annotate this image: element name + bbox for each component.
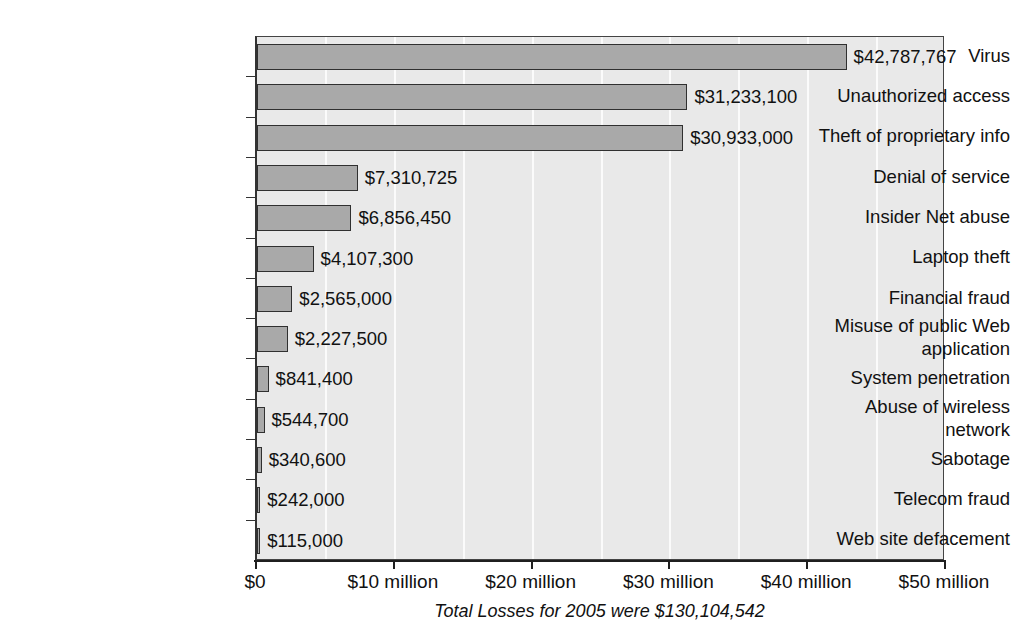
- bar: [257, 366, 269, 392]
- y-axis-tick: [246, 358, 255, 359]
- category-label-line: Denial of service: [873, 166, 1010, 187]
- x-axis-tick-label: $50 million: [899, 571, 990, 593]
- y-axis-tick: [246, 117, 255, 118]
- category-label-line: Sabotage: [931, 448, 1010, 469]
- y-axis-tick: [246, 278, 255, 279]
- y-axis-tick: [246, 76, 255, 77]
- bar: [257, 326, 288, 352]
- category-label: Misuse of public Webapplication: [771, 314, 1017, 360]
- category-label-line: application: [771, 337, 1010, 360]
- y-axis-tick: [246, 520, 255, 521]
- category-label-line: System penetration: [851, 367, 1010, 388]
- bar-value-label: $2,565,000: [292, 286, 392, 312]
- bar-value-label: $544,700: [265, 407, 349, 433]
- bar: [257, 205, 351, 231]
- category-label: Unauthorized access: [771, 84, 1017, 107]
- x-axis-tick-label: $10 million: [347, 571, 438, 593]
- bar-value-label: $242,000: [260, 487, 344, 513]
- category-label: Theft of proprietary info: [771, 124, 1017, 147]
- category-label-line: Laptop theft: [912, 246, 1010, 267]
- category-label-line: Insider Net abuse: [865, 206, 1010, 227]
- category-label: Web site defacement: [771, 527, 1017, 550]
- bar-value-label: $7,310,725: [358, 165, 458, 191]
- y-axis-tick: [246, 399, 255, 400]
- category-label-line: Telecom fraud: [894, 488, 1010, 509]
- x-axis-tick: [393, 560, 395, 569]
- category-label-line: Theft of proprietary info: [819, 125, 1010, 146]
- category-label-line: Virus: [968, 45, 1010, 66]
- x-axis-line: [254, 560, 945, 562]
- y-axis-tick: [246, 197, 255, 198]
- bar-value-label: $2,227,500: [288, 326, 388, 352]
- category-label: Laptop theft: [771, 245, 1017, 268]
- x-axis-tick-label: $40 million: [761, 571, 852, 593]
- bar: [257, 246, 314, 272]
- x-axis-tick-label: $20 million: [485, 571, 576, 593]
- x-axis-tick: [255, 560, 257, 569]
- category-label-line: network: [771, 418, 1010, 441]
- y-axis-tick: [246, 157, 255, 158]
- category-label: Telecom fraud: [771, 487, 1017, 510]
- category-label: Abuse of wirelessnetwork: [771, 395, 1017, 441]
- x-axis-tick: [944, 560, 946, 569]
- bar-value-label: $841,400: [269, 366, 353, 392]
- bar: [257, 165, 358, 191]
- category-label: Sabotage: [771, 447, 1017, 470]
- category-label: Denial of service: [771, 165, 1017, 188]
- category-label: System penetration: [771, 366, 1017, 389]
- x-axis-tick-label: $30 million: [623, 571, 714, 593]
- category-label: Virus: [771, 44, 1017, 67]
- bar-value-label: $340,600: [262, 447, 346, 473]
- bar: [257, 84, 687, 110]
- x-axis-tick-label: $0: [244, 571, 265, 593]
- category-label: Financial fraud: [771, 286, 1017, 309]
- x-axis-tick: [531, 560, 533, 569]
- y-axis-tick: [246, 318, 255, 319]
- bar-chart: $42,787,767$31,233,100$30,933,000$7,310,…: [0, 0, 1017, 643]
- bar: [257, 286, 292, 312]
- category-label-line: Financial fraud: [889, 287, 1010, 308]
- category-label-line: Misuse of public Web: [835, 315, 1011, 336]
- y-axis-tick: [246, 238, 255, 239]
- bar-value-label: $4,107,300: [314, 246, 414, 272]
- bar-value-label: $6,856,450: [351, 205, 451, 231]
- x-axis-tick: [668, 560, 670, 569]
- chart-footer-note: Total Losses for 2005 were $130,104,542: [255, 601, 944, 622]
- category-label: Insider Net abuse: [771, 205, 1017, 228]
- bar: [257, 407, 265, 433]
- category-label-line: Unauthorized access: [837, 85, 1010, 106]
- y-axis-tick: [246, 479, 255, 480]
- category-label-line: Web site defacement: [837, 528, 1010, 549]
- x-axis-tick: [806, 560, 808, 569]
- bar-value-label: $115,000: [260, 528, 343, 554]
- bar: [257, 44, 847, 70]
- y-axis-tick: [246, 439, 255, 440]
- category-label-line: Abuse of wireless: [865, 396, 1010, 417]
- bar: [257, 125, 683, 151]
